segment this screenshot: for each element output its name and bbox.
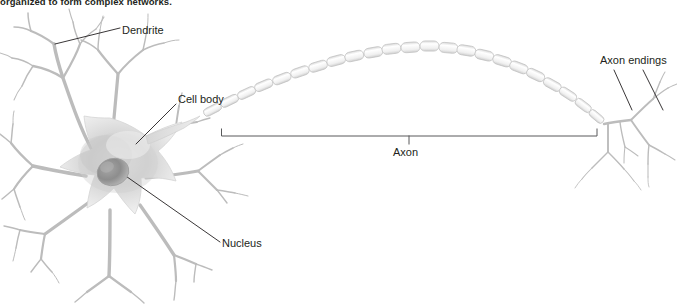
neuron-illustration xyxy=(0,0,677,305)
axon-icon xyxy=(202,41,605,125)
leader-line-dendrite xyxy=(55,28,120,44)
axon-hillock xyxy=(146,116,200,144)
label-axon-endings: Axon endings xyxy=(600,54,667,66)
bracket-icon xyxy=(222,129,598,144)
leader-line-axon-endings-left xyxy=(614,70,632,110)
axon-endings-icon xyxy=(575,72,677,190)
leader-line-axon-endings-right xyxy=(643,70,663,110)
label-nucleus: Nucleus xyxy=(222,237,262,249)
neuron-figure: organized to form complex networks. xyxy=(0,0,677,305)
label-axon: Axon xyxy=(393,146,418,158)
label-dendrite: Dendrite xyxy=(122,24,164,36)
label-cell-body: Cell body xyxy=(178,93,224,105)
